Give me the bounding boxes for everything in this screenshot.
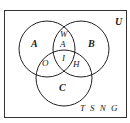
venn-diagram: U A B C W A O I H T S N G (0, 0, 130, 123)
region-ac-o: O (42, 58, 49, 68)
region-bc-h: H (72, 59, 80, 69)
set-b-label: B (87, 38, 95, 49)
universe-label: U (115, 16, 123, 27)
set-a-label: A (30, 38, 38, 49)
set-c-label: C (59, 82, 66, 93)
outside-region-letters: T S N G (80, 103, 119, 113)
region-ab-a: A (59, 39, 66, 49)
